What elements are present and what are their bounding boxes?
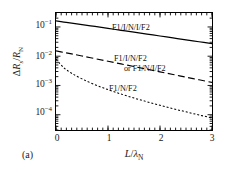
y-tick-label-1e-1: 10−1 [35, 21, 52, 31]
figure-panel-a: 10−1 10−2 10−3 10−4 0 1 2 3 ΔRs/RN L/λN … [0, 0, 227, 176]
y-tick-label-1e-3: 10−3 [35, 80, 52, 90]
x-tick-label-3: 3 [205, 134, 219, 144]
x-axis-sub-n: N [138, 153, 143, 162]
annotation-or-f1-n-i-f2: or F1/N/I/F2 [124, 64, 166, 74]
annotation-f1-n-f2: F1/N/F2 [109, 84, 137, 94]
y-axis-sub-s: s [17, 61, 25, 64]
y-axis-r: R [11, 64, 22, 70]
x-axis-label: L/λN [55, 148, 213, 159]
plot-area: F1/I/N/I/F2 F1/I/N/F2 or F1/N/I/F2 F1/N/… [55, 12, 213, 131]
annotation-f1-i-n-f2: F1/I/N/F2 [114, 54, 147, 64]
y-tick-label-1e-4: 10−4 [35, 108, 52, 118]
x-tick-label-2: 2 [154, 134, 168, 144]
x-tick-label-1: 1 [102, 134, 116, 144]
y-axis-sub-n: N [17, 47, 25, 52]
y-tick-label-1e-2: 10−2 [35, 52, 52, 62]
x-tick-label-0: 0 [50, 134, 64, 144]
y-axis-label: ΔRs/RN [11, 22, 22, 102]
annotation-f1-i-n-i-f2: F1/I/N/I/F2 [112, 23, 150, 33]
panel-label: (a) [22, 150, 33, 160]
y-axis-r2: R [11, 52, 22, 58]
y-axis-delta: Δ [11, 70, 22, 76]
